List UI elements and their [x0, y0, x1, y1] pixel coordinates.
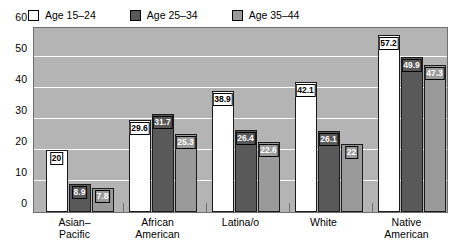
bar-group: 208.97.8 [34, 28, 117, 212]
bar-value-label: 25.3 [175, 136, 196, 149]
bar: 22.6 [258, 142, 280, 212]
bar: 20 [46, 150, 68, 212]
bar: 26.4 [235, 130, 257, 212]
y-axis: 6050403020100 [0, 27, 31, 213]
bar-value-label: 47.3 [424, 67, 445, 80]
x-axis-category-label: White [282, 216, 365, 228]
y-tick-label: 30 [15, 105, 27, 115]
bar-group: 29.631.725.3 [117, 28, 200, 212]
legend-swatch-icon [28, 10, 39, 21]
x-axis-category-label: African American [116, 216, 199, 240]
y-tick-label: 40 [15, 74, 27, 84]
x-axis-category-label: Latina/o [199, 216, 282, 228]
legend-swatch-icon [130, 10, 141, 21]
bar: 42.1 [295, 82, 317, 213]
plot-frame: 208.97.829.631.725.338.926.422.642.126.1… [33, 27, 448, 213]
bar-value-label: 20 [50, 152, 63, 165]
bar-value-label: 7.8 [95, 190, 111, 203]
bar: 49.9 [401, 57, 423, 212]
bar: 29.6 [129, 120, 151, 212]
bar-value-label: 57.2 [378, 37, 399, 50]
bar-group: 57.249.947.3 [366, 28, 449, 212]
legend-item-1: Age 15–24 [28, 10, 96, 21]
bar-value-label: 42.1 [295, 84, 316, 97]
legend-item-label: Age 35–44 [249, 10, 300, 21]
bar-chart: Age 15–24Age 25–34Age 35–44 605040302010… [0, 0, 453, 250]
bar: 31.7 [152, 114, 174, 212]
plot-area: 208.97.829.631.725.338.926.422.642.126.1… [34, 28, 447, 212]
y-tick-label: 0 [21, 198, 27, 208]
bar-value-label: 22 [345, 146, 358, 159]
y-tick-label: 60 [15, 12, 27, 22]
bar: 7.8 [92, 188, 114, 212]
bar-value-label: 31.7 [152, 116, 173, 129]
chart-legend: Age 15–24Age 25–34Age 35–44 [28, 6, 333, 24]
bar-value-label: 49.9 [401, 59, 422, 72]
x-axis-category-label: Native American [365, 216, 448, 240]
bar: 26.1 [318, 131, 340, 212]
bar: 38.9 [212, 91, 234, 212]
bar: 57.2 [378, 35, 400, 212]
x-axis-category-label: Asian– Pacific [33, 216, 116, 240]
bar-value-label: 38.9 [212, 93, 233, 106]
bar-value-label: 29.6 [129, 122, 150, 135]
bar-value-label: 22.6 [258, 144, 279, 157]
bar: 25.3 [175, 134, 197, 212]
bar-value-label: 26.4 [235, 132, 256, 145]
bar: 47.3 [424, 65, 446, 212]
y-tick-label: 50 [15, 43, 27, 53]
legend-item-label: Age 15–24 [45, 10, 96, 21]
legend-item-3: Age 35–44 [232, 10, 300, 21]
bar-group: 42.126.122 [283, 28, 366, 212]
legend-item-2: Age 25–34 [130, 10, 198, 21]
bar-value-label: 26.1 [318, 133, 339, 146]
bar: 22 [341, 144, 363, 212]
bar: 8.9 [69, 184, 91, 212]
bar-group: 38.926.422.6 [200, 28, 283, 212]
legend-item-label: Age 25–34 [147, 10, 198, 21]
legend-swatch-icon [232, 10, 243, 21]
y-tick-label: 10 [15, 167, 27, 177]
bar-value-label: 8.9 [72, 186, 88, 199]
x-axis: Asian– PacificAfrican AmericanLatina/oWh… [33, 216, 448, 250]
y-tick-label: 20 [15, 136, 27, 146]
